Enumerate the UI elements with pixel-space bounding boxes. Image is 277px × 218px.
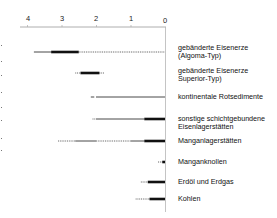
label-line: (Algoma-Typ) xyxy=(178,52,248,60)
label-line: Manganlagerstätten xyxy=(178,137,242,145)
label-line: Kohlen xyxy=(178,195,200,203)
row-label-algoma: gebänderte Eisenerze (Algoma-Typ) xyxy=(178,44,248,61)
label-line: Superior-Typ) xyxy=(178,75,248,83)
x-tick-2: 2 xyxy=(91,14,101,23)
label-line: kontinentale Rotsedimente xyxy=(178,93,263,101)
label-line: Erdöl und Erdgas xyxy=(178,178,234,186)
x-tick-4: 4 xyxy=(23,14,33,23)
left-edge-marks xyxy=(1,45,2,151)
row-label-superior: gebänderte Eisenerze Superior-Typ) xyxy=(178,67,248,84)
row-label-manganknollen: Manganknollen xyxy=(178,158,227,166)
row-label-mangan: Manganlagerstätten xyxy=(178,137,242,145)
range-bars xyxy=(34,52,165,199)
row-label-sonstige: sonstige schichtgebundene Eisenlagerstät… xyxy=(178,115,265,132)
x-tick-3: 3 xyxy=(57,14,67,23)
row-label-rotsedimente: kontinentale Rotsedimente xyxy=(178,93,263,101)
range-chart-plot xyxy=(0,0,277,218)
row-label-erdoel: Erdöl und Erdgas xyxy=(178,178,234,186)
row-label-kohlen: Kohlen xyxy=(178,195,200,203)
x-tick-1: 1 xyxy=(126,14,136,23)
label-line: Eisenlagerstätten xyxy=(178,123,265,131)
x-tick-0: 0 xyxy=(160,16,170,25)
label-line: Manganknollen xyxy=(178,158,227,166)
